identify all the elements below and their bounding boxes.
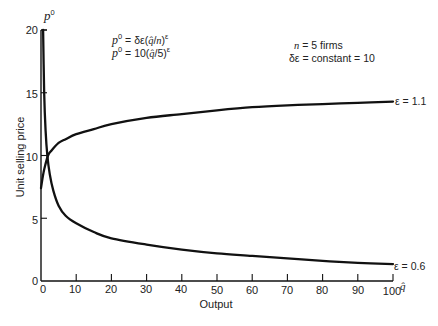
x-tick-label: 20 <box>105 283 117 295</box>
x-tick-label: 90 <box>352 284 364 296</box>
x-axis-symbol: q̂ <box>400 280 406 292</box>
formula-exp: ε <box>165 32 169 41</box>
formula-rest: /5) <box>155 47 167 59</box>
formula-specific: p0 = 10(q̂/5)ε <box>111 45 171 60</box>
x-axis-ticks <box>76 274 393 281</box>
series-label-epsilon-1-1: ε = 1.1 <box>395 95 426 107</box>
axes <box>41 30 393 281</box>
param-n-value: = 5 firms <box>299 39 342 51</box>
formula-p: p <box>111 46 118 60</box>
param-firms: n = 5 firms <box>294 39 343 51</box>
formula-p: p <box>111 33 118 47</box>
x-tick-label: 0 <box>40 283 46 295</box>
x-tick-label: 40 <box>175 283 187 295</box>
curve-epsilon-0-6 <box>43 30 393 264</box>
formula-eq: = δε( <box>122 34 148 46</box>
series-label-epsilon-0-6: ε = 0.6 <box>394 260 425 272</box>
y-tick-label: 0 <box>32 275 38 287</box>
y-tick-label: 20 <box>26 24 38 36</box>
x-tick-label: 30 <box>140 283 152 295</box>
price-output-chart: 0 5 10 15 20 0 10 20 30 40 50 60 70 80 9… <box>0 0 438 326</box>
curve-epsilon-1-1 <box>41 102 393 189</box>
y-axis-symbol: p0 <box>43 8 55 23</box>
x-axis-title: Output <box>199 298 232 310</box>
formula-eq: = 10( <box>122 47 150 59</box>
param-constant: δε = constant = 10 <box>289 52 375 64</box>
y-tick-label: 15 <box>26 88 38 100</box>
x-tick-label: 100 <box>383 285 401 297</box>
x-tick-label: 80 <box>316 284 328 296</box>
y-tick-label: 5 <box>32 214 38 226</box>
y-axis-title: Unit selling price <box>14 117 26 198</box>
x-tick-label: 50 <box>211 284 223 296</box>
x-tick-label: 60 <box>246 284 258 296</box>
formula-exp: ε <box>167 45 171 54</box>
y-symbol-sup: 0 <box>51 8 55 17</box>
x-tick-label: 10 <box>69 283 81 295</box>
y-tick-label: 10 <box>26 151 38 163</box>
x-tick-label: 70 <box>281 284 293 296</box>
